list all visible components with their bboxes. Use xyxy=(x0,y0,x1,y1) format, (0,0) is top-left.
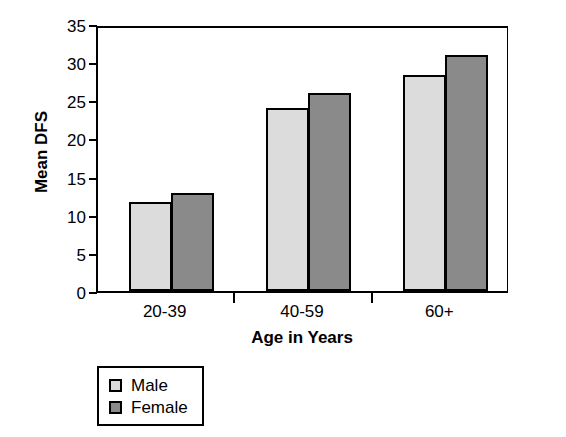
bar-20-39-male xyxy=(129,202,172,291)
y-axis-tick-label: 15 xyxy=(52,170,86,187)
x-axis-title: Age in Years xyxy=(96,328,508,348)
bar-20-39-female xyxy=(171,193,214,291)
bar-40-59-female xyxy=(308,93,351,291)
plot-area xyxy=(98,28,507,291)
bar-60+-male xyxy=(403,75,446,291)
y-axis-tick-label: 30 xyxy=(52,56,86,73)
y-axis-tick-label: 0 xyxy=(52,285,86,302)
y-axis-tick-label: 35 xyxy=(52,18,86,35)
legend-swatch-female-icon xyxy=(109,401,122,414)
x-axis-tick-label: 40-59 xyxy=(280,302,323,322)
bar-60+-female xyxy=(445,55,488,291)
y-axis-tick-label: 10 xyxy=(52,208,86,225)
y-axis-title: Mean DFS xyxy=(32,72,52,232)
y-axis-tick-labels: 05101520253035 xyxy=(52,26,86,293)
x-axis-tick-label: 20-39 xyxy=(143,302,186,322)
x-axis-tick-labels: 20-3940-5960+ xyxy=(96,302,508,326)
y-axis-tick-label: 25 xyxy=(52,94,86,111)
legend-swatch-male-icon xyxy=(109,379,122,392)
plot-frame xyxy=(96,26,508,293)
chart-legend: MaleFemale xyxy=(97,366,204,426)
y-axis-tick-label: 20 xyxy=(52,132,86,149)
legend-label: Male xyxy=(131,377,168,394)
legend-item-male: Male xyxy=(109,374,188,396)
y-axis-tick-label: 5 xyxy=(52,246,86,263)
x-axis-tick-label: 60+ xyxy=(425,302,454,322)
bar-40-59-male xyxy=(266,108,309,291)
bar-chart-figure: Mean DFS 05101520253035 20-3940-5960+ Ag… xyxy=(0,0,566,437)
legend-label: Female xyxy=(131,399,188,416)
legend-item-female: Female xyxy=(109,396,188,418)
